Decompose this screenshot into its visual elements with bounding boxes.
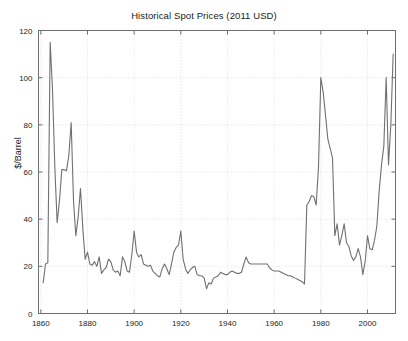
svg-text:1980: 1980 [312,319,330,328]
svg-text:0: 0 [28,310,33,319]
svg-text:120: 120 [19,27,33,36]
svg-text:1860: 1860 [32,319,50,328]
svg-text:80: 80 [24,121,33,130]
svg-text:1940: 1940 [219,319,237,328]
svg-text:1920: 1920 [172,319,190,328]
svg-text:40: 40 [24,215,33,224]
y-axis-ticks: 020406080100120 [19,27,395,319]
svg-text:2000: 2000 [359,319,377,328]
svg-text:20: 20 [24,262,33,271]
plot-area: 020406080100120 186018801900192019401960… [0,0,408,341]
svg-text:100: 100 [19,74,33,83]
svg-text:1960: 1960 [265,319,283,328]
svg-text:1880: 1880 [79,319,97,328]
chart-figure: Historical Spot Prices (2011 USD) $/Barr… [0,0,408,341]
gridlines [39,31,396,314]
svg-text:60: 60 [24,168,33,177]
x-axis-ticks: 18601880190019201940196019802000 [32,31,377,328]
svg-text:1900: 1900 [125,319,143,328]
price-line-series [43,42,393,288]
